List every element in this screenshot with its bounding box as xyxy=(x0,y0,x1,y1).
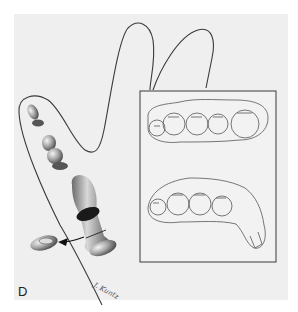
hand-illustration xyxy=(0,0,298,312)
panel-label: D xyxy=(18,284,27,299)
double-bead xyxy=(42,135,68,170)
inset-frame xyxy=(140,91,276,262)
large-piece xyxy=(72,175,119,259)
detached-disc xyxy=(29,233,60,254)
small-bead xyxy=(25,103,44,127)
